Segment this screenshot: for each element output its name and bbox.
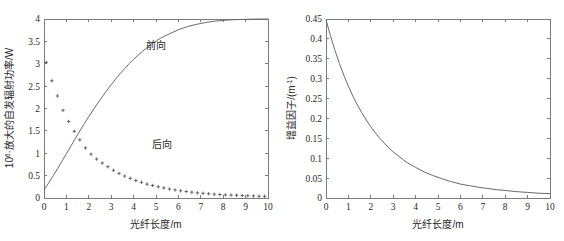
x-tick-label: 10 xyxy=(545,202,555,212)
y-tick-label: 2 xyxy=(35,104,40,114)
data-point-marker xyxy=(61,109,64,112)
x-tick-labels: 012345678910 xyxy=(42,202,273,212)
data-point-marker xyxy=(201,192,204,195)
x-tick-label: 0 xyxy=(42,202,47,212)
y-tick-labels: 00.050.10.150.20.250.30.350.40.45 xyxy=(305,14,322,203)
x-tick-label: 10 xyxy=(263,202,273,212)
data-point-marker xyxy=(129,177,132,180)
data-point-marker xyxy=(252,194,255,197)
y-tick-label: 0.05 xyxy=(305,174,322,184)
x-tick-label: 7 xyxy=(198,202,203,212)
y-tick-label: 0.3 xyxy=(310,74,322,84)
y-axis-title: 106·放大的自发辐射功率/W xyxy=(3,47,15,168)
data-point-marker xyxy=(162,186,165,189)
data-point-marker xyxy=(179,189,182,192)
data-point-marker xyxy=(241,194,244,197)
data-point-marker xyxy=(173,188,176,191)
x-tick-label: 1 xyxy=(64,202,69,212)
data-point-marker xyxy=(106,165,109,168)
data-point-marker xyxy=(257,195,260,198)
y-axis-title-base: 增益因子/(m xyxy=(285,85,297,139)
data-point-marker xyxy=(140,181,143,184)
y-tick-label: 1.5 xyxy=(28,126,40,136)
series-line-gain xyxy=(326,20,550,194)
data-point-marker xyxy=(235,194,238,197)
data-point-marker xyxy=(78,138,81,141)
x-tick-label: 6 xyxy=(458,202,463,212)
y-tick-label: 0.35 xyxy=(305,54,322,64)
data-point-marker xyxy=(56,94,59,97)
chart-svg-right: 012345678910 00.050.10.150.20.250.30.350… xyxy=(282,0,564,241)
series-annotation: 后向 xyxy=(152,138,172,150)
x-tick-label: 4 xyxy=(131,202,136,212)
chart-panel-left: 012345678910 00.511.522.533.54 前向后向 光纤长度… xyxy=(0,0,282,241)
data-point-marker xyxy=(95,157,98,160)
data-point-marker xyxy=(67,120,70,123)
y-tick-label: 0 xyxy=(35,193,40,203)
x-axis-title: 光纤长度/m xyxy=(412,218,463,230)
y-axis-title-rest: ·放大的自发辐射功率/W xyxy=(3,47,15,153)
y-tick-label: 0.2 xyxy=(310,114,322,124)
y-tick-label: 0.5 xyxy=(28,171,40,181)
data-point-marker xyxy=(213,193,216,196)
data-point-marker xyxy=(134,179,137,182)
data-point-marker xyxy=(157,185,160,188)
data-point-marker xyxy=(145,182,148,185)
chart-annotations: 前向后向 xyxy=(146,39,172,149)
chart-panel-right: 012345678910 00.050.10.150.20.250.30.350… xyxy=(282,0,564,241)
series-markers-backward xyxy=(45,61,267,198)
data-point-marker xyxy=(50,79,53,82)
y-tick-label: 0.25 xyxy=(305,94,322,104)
x-tick-label: 7 xyxy=(480,202,485,212)
x-tick-label: 1 xyxy=(346,202,351,212)
y-axis-title: 增益因子/(m-1) xyxy=(285,76,297,140)
y-axis-title-rest: ) xyxy=(286,76,297,79)
y-axis-title-base: 10 xyxy=(4,157,15,169)
y-tick-labels: 00.511.522.533.54 xyxy=(28,14,40,203)
x-tick-label: 3 xyxy=(391,202,396,212)
x-tick-label: 2 xyxy=(368,202,373,212)
x-tick-label: 6 xyxy=(176,202,181,212)
x-tick-label: 3 xyxy=(109,202,114,212)
data-point-marker xyxy=(123,174,126,177)
y-tick-label: 3 xyxy=(35,59,40,69)
figure-container: 012345678910 00.511.522.533.54 前向后向 光纤长度… xyxy=(0,0,564,241)
y-tick-label: 0.4 xyxy=(310,34,322,44)
x-tick-label: 8 xyxy=(503,202,508,212)
data-point-marker xyxy=(73,130,76,133)
x-tick-label: 0 xyxy=(324,202,329,212)
chart-svg-left: 012345678910 00.511.522.533.54 前向后向 光纤长度… xyxy=(0,0,282,241)
data-point-marker xyxy=(246,194,249,197)
x-tick-label: 5 xyxy=(436,202,441,212)
data-point-marker xyxy=(218,193,221,196)
data-point-marker xyxy=(112,169,115,172)
y-tick-label: 0.1 xyxy=(310,154,322,164)
data-point-marker xyxy=(185,190,188,193)
data-point-marker xyxy=(84,146,87,149)
x-tick-label: 8 xyxy=(221,202,226,212)
y-tick-label: 0 xyxy=(317,193,322,203)
y-tick-label: 4 xyxy=(35,14,40,24)
data-point-marker xyxy=(207,192,210,195)
x-tick-labels: 012345678910 xyxy=(324,202,555,212)
y-tick-label: 0.45 xyxy=(305,14,322,24)
data-point-marker xyxy=(196,191,199,194)
data-point-marker xyxy=(229,193,232,196)
y-tick-label: 2.5 xyxy=(28,82,40,92)
x-axis-title: 光纤长度/m xyxy=(130,218,181,230)
x-tick-label: 2 xyxy=(86,202,91,212)
y-tick-label: 0.15 xyxy=(305,134,322,144)
data-point-marker xyxy=(117,172,120,175)
data-point-marker xyxy=(168,187,171,190)
series-annotation: 前向 xyxy=(146,39,166,51)
data-point-marker xyxy=(151,184,154,187)
x-tick-label: 9 xyxy=(525,202,530,212)
data-point-marker xyxy=(101,161,104,164)
x-tick-label: 5 xyxy=(154,202,159,212)
x-tick-label: 9 xyxy=(243,202,248,212)
data-point-marker xyxy=(190,190,193,193)
y-tick-label: 3.5 xyxy=(28,37,40,47)
data-point-marker xyxy=(263,195,266,198)
data-point-marker xyxy=(89,152,92,155)
x-tick-label: 4 xyxy=(413,202,418,212)
